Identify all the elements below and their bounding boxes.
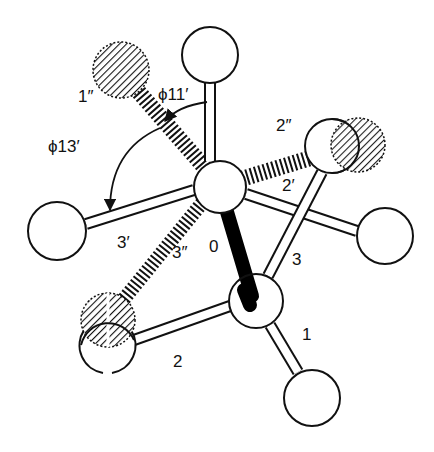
- bond-3prime: [86, 190, 194, 224]
- label-phi11: ϕ11′: [158, 85, 188, 104]
- label-2: 2: [173, 352, 182, 371]
- label-0: 0: [209, 237, 218, 256]
- bond-2: [134, 306, 230, 340]
- atom-top: [182, 27, 238, 83]
- label-2prime: 2′: [282, 176, 295, 195]
- atom-1pp-hatched: [93, 42, 149, 98]
- label-3pp: 3″: [172, 243, 187, 262]
- atom-right: [357, 208, 413, 264]
- central-bond-tip: [244, 290, 250, 305]
- bond-1: [270, 325, 298, 372]
- label-1pp: 1″: [78, 87, 93, 106]
- label-3: 3: [292, 250, 301, 269]
- label-phi13: ϕ13′: [48, 137, 80, 156]
- atom-3prime: [28, 202, 86, 260]
- label-3prime: 3′: [117, 233, 130, 252]
- atom-1: [284, 370, 340, 426]
- atom-central: [194, 161, 246, 213]
- label-1: 1: [302, 325, 311, 344]
- hatched-bond-3pp: [115, 203, 202, 310]
- molecule-diagram: 1″ ϕ11′ ϕ13′ 2″ 2′ 3′ 3″ 0 3 1 2: [0, 0, 434, 452]
- label-2pp: 2″: [276, 116, 291, 135]
